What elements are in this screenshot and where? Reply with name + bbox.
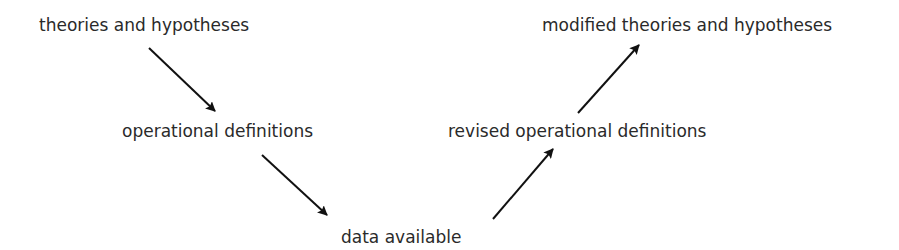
arrow-theories-to-operational [149, 48, 215, 111]
arrow-data-to-revised [493, 149, 553, 219]
arrows-layer [0, 0, 899, 250]
arrow-operational-to-data [262, 155, 327, 215]
arrow-revised-to-modified [578, 45, 639, 113]
